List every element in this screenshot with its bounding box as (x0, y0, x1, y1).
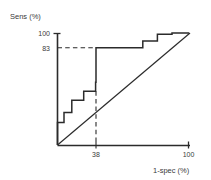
x-tick-label-100: 100 (183, 151, 195, 158)
roc-plot-canvas: Sens (%) 1-spec (%) 100 83 38 100 (0, 0, 211, 180)
reference-diagonal-line (58, 33, 191, 145)
y-tick-label-100: 100 (38, 30, 50, 37)
roc-chart-figure: Sens (%) 1-spec (%) 100 83 38 100 (0, 0, 211, 180)
y-tick-label-83: 83 (42, 45, 50, 52)
x-axis-title: 1-spec (%) (153, 166, 190, 175)
x-tick-label-38: 38 (92, 151, 100, 158)
y-axis-title: Sens (%) (10, 12, 41, 21)
